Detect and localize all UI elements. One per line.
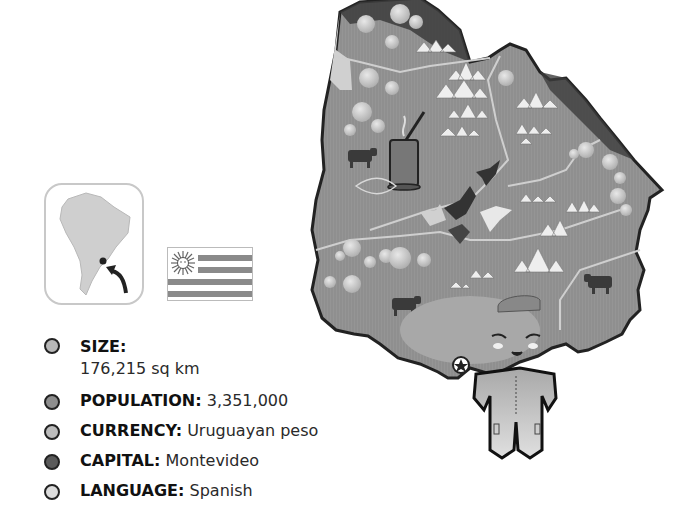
uruguay-illustrated-map [300,0,688,517]
fact-capital: CAPITAL: Montevideo [43,446,318,476]
fact-label: LANGUAGE: [80,481,184,500]
fact-value: 3,351,000 [207,391,288,410]
fact-language: LANGUAGE: Spanish [43,476,318,506]
fact-label: CURRENCY: [80,421,182,440]
fact-value: Uruguayan peso [187,421,318,440]
fact-value: 176,215 sq km [80,359,200,378]
fact-population: POPULATION: 3,351,000 [43,386,318,416]
uruguay-flag [167,247,253,301]
bullet-icon [44,454,60,470]
fact-value: Spanish [190,481,253,500]
bullet-icon [44,484,60,500]
fact-currency: CURRENCY: Uruguayan peso [43,416,318,446]
fact-label: POPULATION: [80,391,202,410]
facts-list: SIZE: 176,215 sq km POPULATION: 3,351,00… [43,332,318,506]
character-body [474,368,556,458]
bullet-icon [44,424,60,440]
fact-size: SIZE: 176,215 sq km [43,332,318,386]
uruguay-marker [100,258,107,265]
south-america-locator-map [44,183,144,305]
south-america-map-icon [46,185,142,303]
capital-star-icon [453,357,469,373]
bullet-icon [44,338,60,354]
fact-label: SIZE: [80,337,126,356]
sun-of-may-icon [170,250,196,276]
bullet-icon [44,394,60,410]
fact-value: Montevideo [166,451,260,470]
fact-label: CAPITAL: [80,451,160,470]
